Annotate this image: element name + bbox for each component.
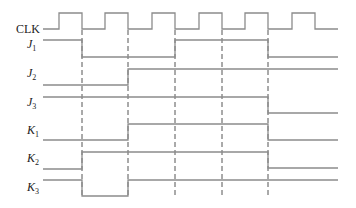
waveform-j1 <box>43 40 338 57</box>
label-k2: K2 <box>26 151 39 167</box>
label-clk: CLK <box>16 22 40 36</box>
label-k1: K1 <box>26 123 39 139</box>
waveform-k3 <box>43 180 338 196</box>
label-j3: J3 <box>27 95 36 111</box>
waveform-k2 <box>43 152 338 169</box>
label-k3: K3 <box>26 180 39 196</box>
waveforms <box>43 13 338 196</box>
label-j1: J1 <box>27 37 36 53</box>
timing-diagram: CLKJ1J2J3K1K2K3 <box>0 0 356 208</box>
waveform-k1 <box>43 124 338 140</box>
waveform-clk <box>43 13 338 29</box>
waveform-j2 <box>43 69 338 85</box>
signal-labels: CLKJ1J2J3K1K2K3 <box>16 22 40 196</box>
label-j2: J2 <box>27 66 36 82</box>
waveform-j3 <box>43 97 338 113</box>
